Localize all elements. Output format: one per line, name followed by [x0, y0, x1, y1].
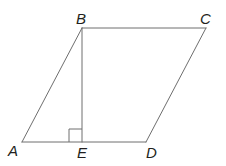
vertex-label-c: C — [200, 11, 211, 26]
vertex-label-e: E — [77, 145, 87, 160]
segment-ab — [22, 28, 82, 142]
parallelogram-diagram — [0, 0, 226, 166]
vertex-label-b: B — [76, 11, 86, 26]
right-angle-marker-icon — [69, 129, 82, 142]
geometry-figure: A B C D E — [0, 0, 226, 166]
vertex-label-d: D — [146, 145, 157, 160]
vertex-label-a: A — [8, 143, 18, 158]
segment-cd — [146, 28, 206, 142]
